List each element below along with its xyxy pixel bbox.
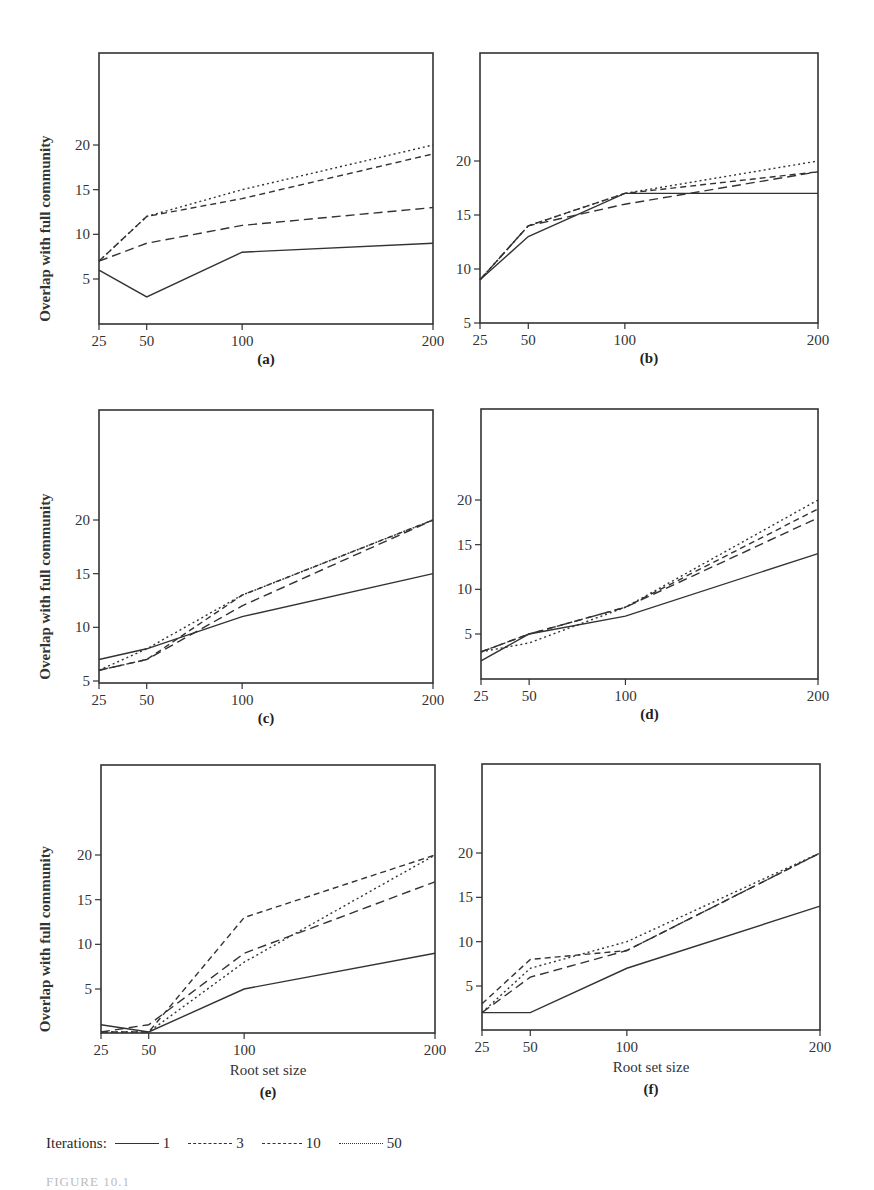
dotted-line-icon: [339, 1143, 383, 1144]
y-tick-label: 20: [77, 847, 92, 863]
y-tick-label: 10: [458, 934, 473, 950]
series-line-50: [101, 855, 435, 1032]
x-axis-title: Root set size: [230, 1062, 307, 1078]
y-axis-title: Overlap with full community: [37, 493, 53, 680]
y-tick-label: 15: [75, 182, 90, 198]
series-line-3: [99, 208, 433, 262]
x-tick-label: 100: [231, 692, 254, 708]
y-tick-label: 15: [458, 889, 473, 905]
x-tick-label: 100: [616, 1039, 639, 1055]
x-tick-label: 200: [422, 333, 445, 349]
x-tick-label: 50: [141, 1042, 156, 1058]
plot-frame-5: [101, 765, 435, 1033]
plot-frame-6: [482, 764, 820, 1030]
y-tick-label: 5: [83, 673, 91, 689]
dash-line-icon: [262, 1143, 302, 1144]
y-tick-label: 15: [457, 537, 472, 553]
plot-frame-4: [481, 409, 818, 679]
y-tick-label: 10: [75, 619, 90, 635]
plot-frame-2: [480, 53, 818, 323]
y-tick-label: 15: [75, 566, 90, 582]
x-tick-label: 200: [807, 688, 830, 704]
panel-label: (d): [640, 706, 658, 723]
y-tick-label: 20: [75, 512, 90, 528]
x-tick-label: 50: [521, 332, 536, 348]
series-line-50: [482, 853, 820, 1013]
y-tick-label: 5: [85, 981, 93, 997]
y-tick-label: 15: [77, 892, 92, 908]
panel-label: (f): [644, 1081, 659, 1098]
x-tick-label: 25: [473, 332, 488, 348]
panel-label: (b): [640, 350, 658, 367]
legend-item-50: 50: [339, 1135, 402, 1152]
series-line-50: [480, 161, 818, 280]
x-tick-label: 100: [233, 1042, 256, 1058]
y-axis-title: Overlap with full community: [37, 135, 53, 322]
series-line-3: [101, 882, 435, 1032]
legend-item-3: 3: [188, 1135, 244, 1152]
series-line-1: [482, 906, 820, 1012]
series-line-1: [101, 953, 435, 1032]
series-line-10: [482, 853, 820, 1004]
x-tick-label: 100: [614, 688, 637, 704]
series-line-3: [480, 172, 818, 280]
legend-item-1: 1: [115, 1135, 171, 1152]
x-tick-label: 100: [231, 333, 254, 349]
series-line-3: [482, 853, 820, 1013]
series-line-50: [99, 145, 433, 261]
y-tick-label: 5: [83, 271, 91, 287]
panel-label: (a): [257, 351, 275, 368]
series-line-1: [480, 193, 818, 279]
series-line-50: [481, 500, 818, 652]
x-tick-label: 25: [474, 688, 489, 704]
x-tick-label: 100: [614, 332, 637, 348]
y-tick-label: 10: [457, 581, 472, 597]
series-line-1: [481, 554, 818, 661]
solid-line-icon: [115, 1143, 159, 1144]
y-tick-label: 15: [456, 207, 471, 223]
x-tick-label: 50: [523, 1039, 538, 1055]
y-tick-label: 20: [456, 153, 471, 169]
series-line-1: [99, 243, 433, 297]
x-tick-label: 25: [92, 333, 107, 349]
x-tick-label: 25: [92, 692, 107, 708]
series-line-1: [99, 574, 433, 660]
x-tick-label: 25: [475, 1039, 490, 1055]
series-line-10: [481, 509, 818, 652]
y-tick-label: 5: [464, 315, 472, 331]
long-dash-line-icon: [188, 1143, 232, 1144]
x-tick-label: 50: [139, 692, 154, 708]
x-tick-label: 50: [139, 333, 154, 349]
y-tick-label: 5: [466, 978, 474, 994]
plot-frame-1: [99, 53, 433, 324]
x-tick-label: 200: [422, 692, 445, 708]
series-line-10: [101, 855, 435, 1032]
legend-title: Iterations:: [46, 1135, 107, 1152]
y-tick-label: 20: [458, 845, 473, 861]
plot-frame-3: [99, 410, 433, 683]
panel-label: (e): [260, 1084, 277, 1101]
x-tick-label: 200: [424, 1042, 447, 1058]
legend: Iterations: 1 3 10 50: [46, 1135, 412, 1152]
legend-item-10: 10: [262, 1135, 321, 1152]
y-tick-label: 20: [75, 137, 90, 153]
x-tick-label: 50: [522, 688, 537, 704]
series-line-3: [481, 518, 818, 652]
y-tick-label: 10: [75, 226, 90, 242]
y-tick-label: 10: [456, 261, 471, 277]
x-axis-title: Root set size: [613, 1059, 690, 1075]
x-tick-label: 25: [94, 1042, 109, 1058]
panel-label: (c): [258, 710, 275, 727]
y-tick-label: 20: [457, 492, 472, 508]
figure-caption: FIGURE 10.1: [46, 1174, 130, 1190]
x-tick-label: 200: [807, 332, 830, 348]
x-tick-label: 200: [809, 1039, 832, 1055]
y-tick-label: 5: [465, 626, 473, 642]
y-axis-title: Overlap with full community: [37, 845, 53, 1032]
y-tick-label: 10: [77, 936, 92, 952]
